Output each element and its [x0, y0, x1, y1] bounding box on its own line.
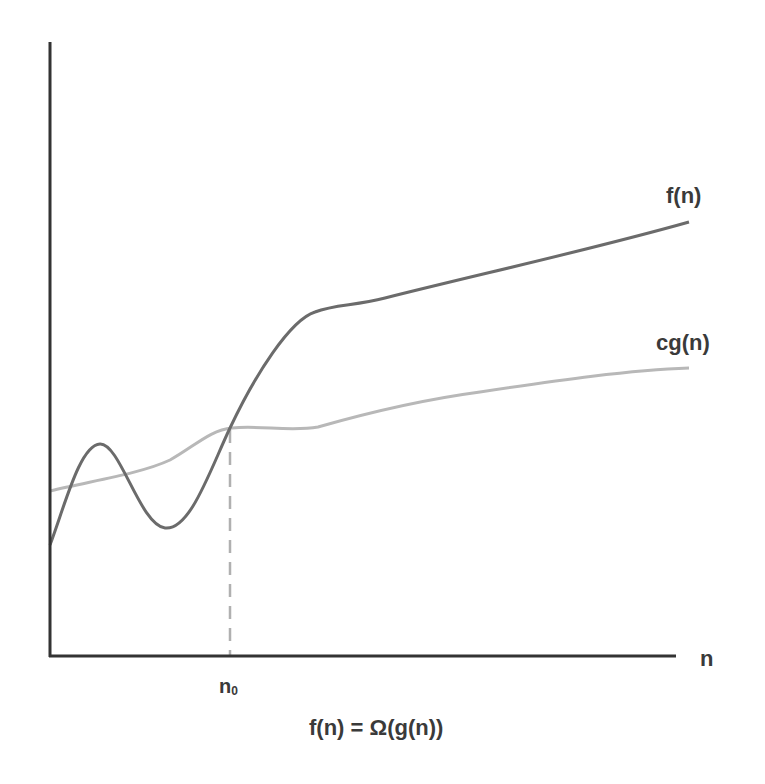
f-n-curve	[50, 222, 689, 545]
chart-title: f(n) = Ω(g(n))	[309, 715, 443, 741]
cg-n-curve	[50, 368, 689, 491]
cg-n-label: cg(n)	[656, 330, 710, 356]
f-n-label: f(n)	[666, 183, 701, 209]
n0-base: n	[219, 675, 231, 697]
x-axis-label: n	[700, 646, 713, 672]
n0-subscript: 0	[231, 684, 238, 698]
chart-canvas	[0, 0, 765, 784]
n0-tick-label: n0	[219, 675, 238, 698]
